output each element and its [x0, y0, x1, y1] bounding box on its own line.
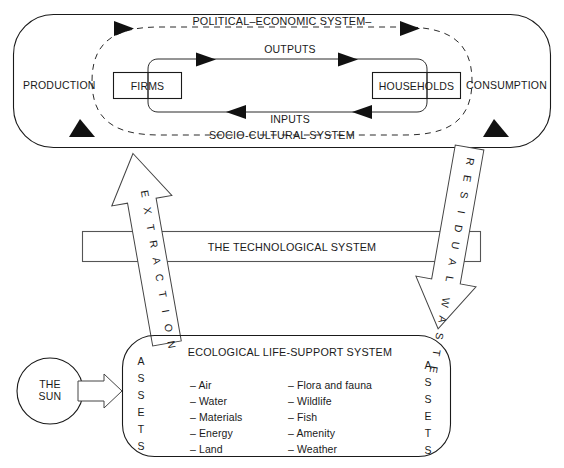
- diagram-canvas: POLITICAL–ECONOMIC SYSTEM– SOCIO-CULTURA…: [0, 0, 564, 468]
- extraction-letter-10: N: [165, 340, 178, 350]
- ecological-assets-column-right: – Flora and fauna – Wildlife – Fish – Am…: [288, 379, 372, 455]
- socio-cultural-system-label: SOCIO-CULTURAL SYSTEM: [209, 129, 355, 141]
- asset-item-left-4: – Energy: [190, 427, 233, 439]
- asset-item-right-3: – Fish: [288, 411, 317, 423]
- residual-letter-9: W: [439, 297, 453, 309]
- consumption-label: CONSUMPTION: [466, 79, 547, 91]
- residual-letter-12: T: [430, 349, 443, 358]
- dashed-loop-arrow-bottom-right: [483, 119, 509, 137]
- sun-energy-arrow: [78, 374, 122, 408]
- asset-item-right-1: – Flora and fauna: [288, 379, 372, 391]
- households-label: HOUSEHOLDS: [379, 80, 455, 92]
- assets-left-letter-4: E: [137, 406, 144, 418]
- assets-left-letter-6: S: [137, 440, 144, 452]
- asset-item-left-2: – Water: [190, 395, 227, 407]
- political-economic-system-label: POLITICAL–ECONOMIC SYSTEM–: [192, 15, 371, 27]
- asset-item-right-4: – Amenity: [288, 427, 336, 439]
- ecological-system-title: ECOLOGICAL LIFE-SUPPORT SYSTEM: [188, 346, 392, 358]
- inputs-arrow-left: [226, 105, 246, 119]
- assets-left-letter-1: A: [137, 355, 144, 367]
- dashed-loop-arrow-top-left: [114, 21, 134, 36]
- assets-left-letter-5: T: [138, 423, 145, 435]
- outputs-arrow-left: [196, 53, 216, 67]
- outputs-label: OUTPUTS: [264, 43, 316, 55]
- assets-right-letter-4: E: [424, 410, 431, 422]
- firms-label: FIRMS: [131, 80, 165, 92]
- inputs-arrow-right: [352, 105, 372, 119]
- residual-letter-11: S: [433, 332, 446, 341]
- sun-label-line2: SUN: [39, 390, 62, 402]
- technological-system-label: THE TECHNOLOGICAL SYSTEM: [208, 241, 377, 253]
- dashed-loop-arrow-top-right: [400, 21, 420, 36]
- sun-group: THE SUN: [17, 358, 122, 424]
- ecological-assets-column-left: – Air – Water – Materials – Energy – Lan…: [190, 379, 242, 455]
- outputs-arrow-right: [338, 53, 358, 67]
- assets-right-letter-6: S: [424, 444, 431, 456]
- economy-environment-diagram: POLITICAL–ECONOMIC SYSTEM– SOCIO-CULTURA…: [0, 0, 564, 468]
- sun-label-line1: THE: [39, 378, 61, 390]
- ecological-capsule-group: ECOLOGICAL LIFE-SUPPORT SYSTEM A S S E T…: [120, 336, 451, 457]
- asset-item-right-2: – Wildlife: [288, 395, 332, 407]
- assets-right-letter-5: T: [425, 427, 432, 439]
- assets-right-letter-1: A: [424, 359, 431, 371]
- asset-item-left-1: – Air: [190, 379, 212, 391]
- assets-right-letter-2: S: [424, 376, 431, 388]
- assets-left-letter-2: S: [137, 372, 144, 384]
- assets-right-group: A S S E T S ASSETS: [407, 359, 450, 456]
- inputs-label: INPUTS: [270, 113, 310, 125]
- dashed-loop-arrow-bottom-left: [69, 119, 95, 137]
- asset-item-left-5: – Land: [190, 443, 223, 455]
- asset-item-left-3: – Materials: [190, 411, 242, 423]
- assets-left-group: A S S E T S ASSETS: [120, 355, 163, 452]
- economy-capsule-group: POLITICAL–ECONOMIC SYSTEM– SOCIO-CULTURA…: [14, 15, 551, 148]
- asset-item-right-5: – Weather: [288, 443, 338, 455]
- production-label: PRODUCTION: [23, 79, 96, 91]
